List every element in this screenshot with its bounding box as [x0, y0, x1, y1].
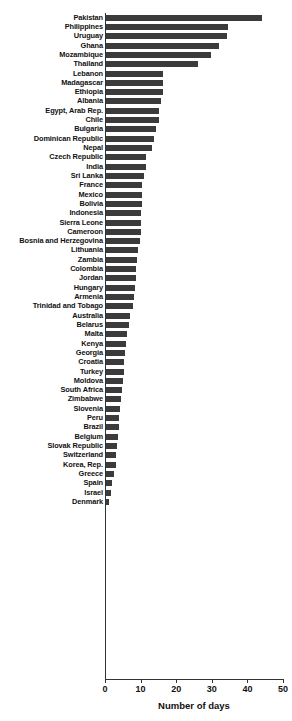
x-axis-line — [105, 679, 284, 680]
bar-row: Sierra Leone — [0, 218, 292, 227]
bar-row: South Africa — [0, 386, 292, 395]
bar-row: Chile — [0, 115, 292, 124]
bar-track — [105, 220, 283, 226]
bar-row: Turkey — [0, 367, 292, 376]
bar-row: Croatia — [0, 358, 292, 367]
x-axis-tick — [283, 679, 284, 683]
x-axis-tick — [176, 679, 177, 683]
bar — [105, 61, 198, 67]
bar — [105, 80, 163, 86]
category-label: Switzerland — [63, 451, 103, 459]
bar-row: Bosnia and Herzegovina — [0, 237, 292, 246]
category-label: Ethiopia — [75, 88, 103, 96]
bar-row: France — [0, 181, 292, 190]
bar-track — [105, 117, 283, 123]
category-label: Sierra Leone — [59, 219, 103, 227]
bar-track — [105, 89, 283, 95]
bar-track — [105, 378, 283, 384]
bar-track — [105, 126, 283, 132]
bar — [105, 415, 119, 421]
x-axis-tick-label: 40 — [242, 684, 252, 694]
category-label: Cameroon — [67, 228, 103, 236]
bar-row: Moldova — [0, 376, 292, 385]
bar-row: Slovak Republic — [0, 441, 292, 450]
bar — [105, 359, 124, 365]
bar — [105, 275, 136, 281]
bar-row: Belarus — [0, 320, 292, 329]
bar-row: Zimbabwe — [0, 395, 292, 404]
bar-row: Bolivia — [0, 199, 292, 208]
bar — [105, 257, 137, 263]
bar-track — [105, 350, 283, 356]
category-label: Peru — [87, 414, 103, 422]
bar — [105, 471, 114, 477]
bar-row: Philippines — [0, 22, 292, 31]
bar-track — [105, 313, 283, 319]
bar-row: Bulgaria — [0, 125, 292, 134]
bar — [105, 173, 144, 179]
category-label: Chile — [85, 116, 103, 124]
category-label: Belgium — [75, 433, 103, 441]
bar — [105, 350, 125, 356]
category-label: Brazil — [83, 423, 103, 431]
bar-track — [105, 490, 283, 496]
bar-row: Lithuania — [0, 246, 292, 255]
bar-row: Hungary — [0, 283, 292, 292]
bar-track — [105, 15, 283, 21]
bar-row: Mexico — [0, 190, 292, 199]
x-axis-tick-label: 50 — [278, 684, 288, 694]
bar — [105, 98, 161, 104]
bar-track — [105, 266, 283, 272]
bar-track — [105, 164, 283, 170]
bar-row: Brazil — [0, 423, 292, 432]
category-label: Armenia — [74, 293, 103, 301]
category-label: Hungary — [74, 284, 103, 292]
bar — [105, 480, 112, 486]
category-label: Israel — [84, 489, 103, 497]
bar-track — [105, 145, 283, 151]
bar — [105, 434, 118, 440]
bar — [105, 220, 141, 226]
bar — [105, 108, 159, 114]
bar-track — [105, 154, 283, 160]
category-label: Bolivia — [79, 200, 103, 208]
bar — [105, 369, 124, 375]
bar-track — [105, 257, 283, 263]
bar-row: Denmark — [0, 497, 292, 506]
bar — [105, 136, 154, 142]
category-label: Ghana — [81, 42, 104, 50]
category-label: Lebanon — [73, 70, 103, 78]
bar-track — [105, 415, 283, 421]
category-label: Bosnia and Herzegovina — [19, 237, 103, 245]
bar-chart: PakistanPhilippinesUruguayGhanaMozambiqu… — [0, 0, 292, 721]
category-label: Nepal — [83, 144, 103, 152]
bar-row: Spain — [0, 479, 292, 488]
x-axis-tick-label: 0 — [102, 684, 107, 694]
bar — [105, 71, 163, 77]
bar-track — [105, 275, 283, 281]
chart-title — [0, 0, 292, 2]
bar-track — [105, 294, 283, 300]
bar — [105, 424, 119, 430]
category-label: Belarus — [77, 321, 103, 329]
bar-track — [105, 33, 283, 39]
bar — [105, 322, 129, 328]
bar-row: Armenia — [0, 292, 292, 301]
bar-track — [105, 238, 283, 244]
category-label: Mexico — [79, 191, 103, 199]
bar-row: Peru — [0, 413, 292, 422]
category-label: Slovenia — [73, 405, 103, 413]
bar-row: India — [0, 162, 292, 171]
bar-row: Ethiopia — [0, 88, 292, 97]
y-axis-line — [105, 13, 106, 679]
category-label: Australia — [72, 312, 103, 320]
bar — [105, 15, 262, 21]
bar — [105, 52, 211, 58]
category-label: Georgia — [76, 349, 103, 357]
category-label: Thailand — [73, 60, 103, 68]
bar-row: Trinidad and Tobago — [0, 302, 292, 311]
bar-row: Colombia — [0, 264, 292, 273]
bar-row: Madagascar — [0, 78, 292, 87]
category-label: Jordan — [79, 274, 103, 282]
bar-row: Cameroon — [0, 227, 292, 236]
